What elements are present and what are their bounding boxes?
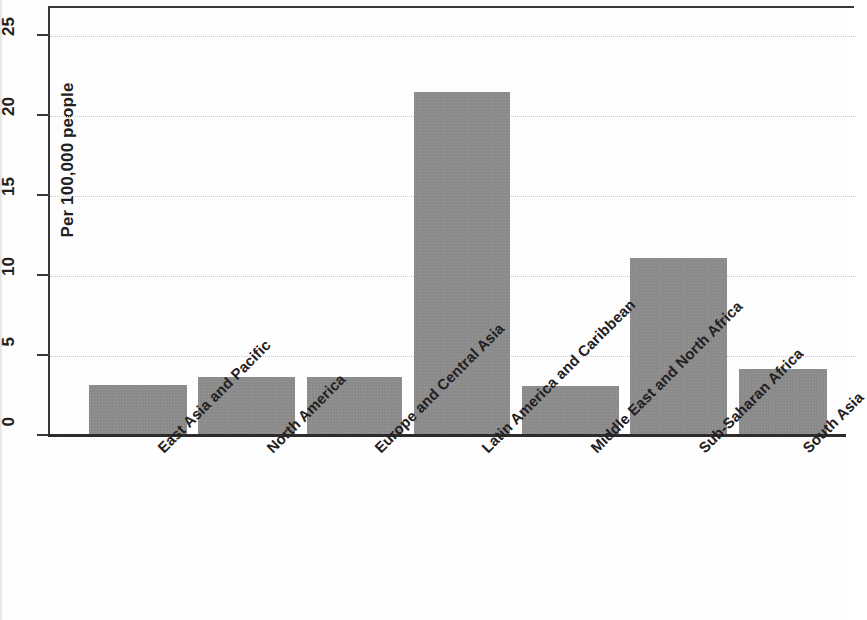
y-tick-mark-5 [37,354,48,356]
gridline-25 [50,36,856,37]
y-tick-label-25: 25 [0,17,19,51]
y-tick-mark-20 [37,114,48,116]
bar [414,92,510,436]
y-tick-mark-15 [37,194,48,196]
y-tick-mark-10 [37,274,48,276]
y-tick-label-10: 10 [0,257,19,291]
y-tick-label-15: 15 [0,177,19,211]
scan-edge-shadow [0,0,3,620]
y-tick-label-0: 0 [0,417,19,451]
y-tick-label-5: 5 [0,337,19,371]
y-tick-label-20: 20 [0,97,19,131]
y-tick-mark-25 [37,34,48,36]
y-tick-mark-0 [37,434,48,436]
